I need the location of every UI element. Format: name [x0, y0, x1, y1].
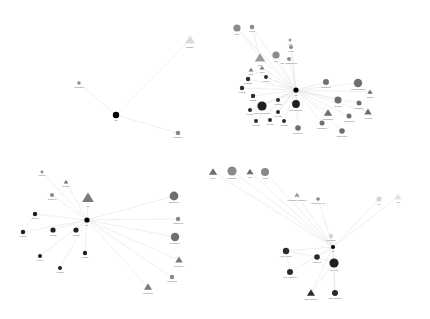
graph-node[interactable]: Coworker1 — [321, 79, 332, 88]
node-circle[interactable] — [254, 119, 258, 123]
graph-node[interactable]: Mgr — [272, 51, 279, 61]
node-triangle[interactable] — [294, 193, 299, 197]
graph-node[interactable]: Club — [209, 168, 217, 179]
node-circle[interactable] — [320, 121, 325, 126]
node-circle[interactable] — [283, 248, 289, 254]
graph-node[interactable]: Manager — [185, 35, 196, 48]
node-circle[interactable] — [276, 110, 280, 114]
graph-node[interactable]: Lab — [394, 194, 401, 204]
node-triangle[interactable] — [307, 289, 315, 295]
node-circle[interactable] — [335, 97, 342, 104]
node-circle[interactable] — [293, 87, 298, 92]
graph-node[interactable]: Peer2 — [288, 45, 294, 52]
node-circle[interactable] — [170, 275, 174, 279]
graph-node[interactable]: IRC_net1 — [313, 254, 323, 264]
graph-node[interactable]: Friend4 — [36, 254, 44, 261]
node-circle[interactable] — [33, 212, 37, 216]
graph-node[interactable]: Coworker2 — [344, 114, 355, 122]
graph-node[interactable]: TeamB — [250, 94, 257, 101]
graph-node[interactable]: Friend2 — [238, 86, 246, 93]
node-circle[interactable] — [329, 234, 333, 238]
node-circle[interactable] — [289, 39, 292, 42]
node-circle[interactable] — [21, 230, 25, 234]
graph-node[interactable]: Coworker3 — [170, 233, 181, 244]
node-triangle[interactable] — [249, 68, 254, 72]
node-circle[interactable] — [250, 25, 255, 30]
node-circle[interactable] — [331, 245, 335, 249]
graph-node[interactable]: Peer1 — [249, 25, 255, 33]
node-circle[interactable] — [354, 79, 362, 87]
ego-node[interactable]: Me — [113, 112, 119, 121]
node-triangle[interactable] — [64, 180, 69, 184]
node-circle[interactable] — [376, 196, 381, 201]
node-triangle[interactable] — [255, 53, 266, 61]
graph-node[interactable]: Coworker4 — [174, 257, 185, 267]
node-circle[interactable] — [50, 193, 54, 197]
graph-node[interactable]: Relatives — [48, 193, 57, 200]
graph-node[interactable]: AcademicPartner — [350, 79, 366, 90]
node-circle[interactable] — [323, 79, 329, 85]
node-triangle[interactable] — [209, 168, 217, 175]
node-circle[interactable] — [292, 100, 300, 108]
node-circle[interactable] — [246, 77, 250, 81]
graph-node[interactable]: IRC_channel3 — [328, 290, 342, 300]
node-circle[interactable] — [73, 227, 78, 232]
node-circle[interactable] — [316, 197, 320, 201]
graph-node[interactable]: Grp1 — [255, 53, 266, 66]
graph-node[interactable]: IRC_staff — [329, 258, 338, 271]
node-circle[interactable] — [227, 166, 236, 175]
graph-node[interactable]: Coworker1_ofc — [311, 197, 325, 205]
node-circle[interactable] — [84, 217, 89, 222]
node-triangle[interactable] — [394, 194, 401, 200]
graph-node[interactable]: Friend6 — [266, 118, 274, 125]
graph-node[interactable]: Coworker5 — [167, 275, 178, 282]
graph-node[interactable]: Colleague — [326, 234, 336, 241]
graph-node[interactable]: Friend3 — [72, 227, 80, 235]
graph-node[interactable]: Friend1 — [19, 230, 27, 237]
node-circle[interactable] — [314, 254, 320, 260]
graph-node[interactable]: Teammate — [74, 81, 85, 87]
graph-node[interactable]: Seminar2_Coworker — [288, 193, 307, 202]
graph-node[interactable]: Friend7 — [252, 119, 260, 126]
node-circle[interactable] — [268, 118, 272, 122]
graph-node[interactable]: Brother — [63, 180, 70, 187]
graph-node[interactable]: Friend6 — [81, 251, 89, 258]
graph-node[interactable]: Coauthor — [355, 101, 364, 109]
ego-node[interactable]: Me — [331, 245, 335, 252]
node-circle[interactable] — [287, 269, 293, 275]
node-triangle[interactable] — [367, 90, 372, 94]
graph-node[interactable]: Grp2 — [249, 68, 255, 76]
node-circle[interactable] — [339, 128, 345, 134]
graph-node[interactable]: FriendC1 — [244, 77, 253, 84]
graph-node[interactable]: Advisor1 — [366, 90, 375, 98]
graph-node[interactable]: Coworker2 — [173, 217, 184, 224]
graph-node[interactable]: Parent — [32, 212, 39, 219]
node-circle[interactable] — [272, 51, 279, 58]
node-circle[interactable] — [287, 57, 291, 61]
graph-node[interactable]: IRC_channel1 — [283, 269, 297, 279]
node-circle[interactable] — [50, 227, 55, 232]
graph-node[interactable]: Seminar1 — [227, 166, 237, 178]
node-circle[interactable] — [357, 101, 362, 106]
node-circle[interactable] — [264, 75, 268, 79]
graph-node[interactable]: Coworker1 — [169, 192, 180, 204]
ego-node[interactable]: Me — [84, 217, 89, 225]
graph-node[interactable]: Coworker4 — [293, 125, 304, 134]
graph-node[interactable]: Friend5 — [56, 266, 64, 273]
node-circle[interactable] — [38, 254, 42, 258]
node-circle[interactable] — [276, 98, 280, 102]
graph-node[interactable]: Coworker3 — [317, 121, 328, 129]
graph-node[interactable]: Ref — [376, 196, 381, 204]
node-circle[interactable] — [248, 108, 252, 112]
node-circle[interactable] — [329, 258, 338, 267]
graph-node[interactable]: Seminar — [334, 97, 342, 107]
graph-node[interactable]: Partner — [39, 171, 46, 177]
node-circle[interactable] — [295, 125, 301, 131]
node-circle[interactable] — [176, 131, 181, 136]
node-circle[interactable] — [113, 112, 119, 118]
node-triangle[interactable] — [246, 169, 253, 175]
graph-node[interactable]: Chat — [233, 24, 240, 34]
node-circle[interactable] — [233, 24, 240, 31]
node-triangle[interactable] — [175, 257, 183, 263]
graph-node[interactable]: Friend8 — [280, 119, 288, 126]
